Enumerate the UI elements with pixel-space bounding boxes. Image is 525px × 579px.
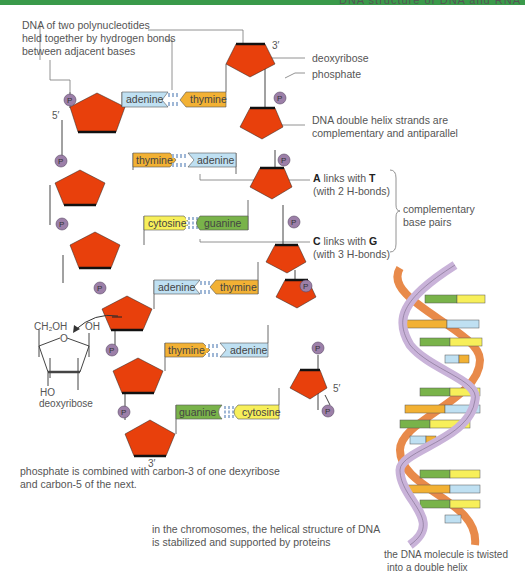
sugar-icon (70, 93, 125, 132)
helix-note: the DNA molecule is twisted into a doubl… (384, 548, 508, 574)
svg-text:P: P (281, 156, 286, 165)
svg-text:adenine: adenine (126, 93, 164, 105)
svg-text:adenine: adenine (158, 281, 196, 293)
phosphate-icon: P (322, 405, 334, 417)
sugar-icon (240, 108, 283, 139)
svg-text:O: O (60, 333, 68, 344)
phosphate-icon: P (64, 94, 76, 106)
sugar-icon (102, 296, 152, 330)
svg-text:P: P (97, 284, 102, 293)
cg-link-label: C links with G (with 3 H-bonds) (313, 235, 390, 261)
phosphate-icon: P (118, 406, 130, 418)
svg-text:thymine: thymine (190, 93, 227, 105)
phosphate-icon: P (274, 92, 286, 104)
sugar-icon (113, 358, 163, 393)
svg-text:thymine: thymine (136, 154, 173, 166)
chromosomes-note: in the chromosomes, the helical structur… (152, 523, 380, 549)
svg-text:thymine: thymine (168, 344, 205, 356)
svg-text:P: P (303, 282, 308, 291)
sugar-icon (70, 232, 120, 268)
base-pair-6: guanine cytosine (176, 388, 281, 434)
phosphate-icon: P (94, 282, 106, 294)
phosphate-label: phosphate (312, 68, 361, 81)
svg-text:deoxyribose: deoxyribose (39, 398, 93, 409)
phosphate-note: phosphate is combined with carbon-3 of o… (20, 465, 280, 491)
phosphate-icon: P (106, 344, 118, 356)
base-pair-2: thymine adenine (133, 153, 236, 174)
svg-text:thymine: thymine (220, 281, 257, 293)
sugar-icon (266, 245, 306, 273)
prime-5-bottom: 5′ (333, 383, 340, 394)
svg-text:guanine: guanine (204, 217, 242, 229)
svg-text:P: P (67, 96, 72, 105)
svg-text:P: P (315, 344, 320, 353)
dna-structure-diagram: P P P P P P P P P P P P adenine thymine … (0, 0, 525, 579)
phosphate-icon: P (312, 342, 324, 354)
svg-text:P: P (325, 407, 330, 416)
svg-text:P: P (121, 408, 126, 417)
prime-5-top: 5′ (52, 110, 59, 121)
base-pair-1: adenine thymine (122, 64, 227, 107)
svg-text:cytosine: cytosine (242, 406, 281, 418)
sugar-icon (125, 420, 175, 456)
svg-text:OH: OH (85, 321, 100, 332)
antiparallel-label: DNA double helix strands are complementa… (312, 114, 458, 140)
prime-3-top: 3′ (272, 40, 279, 51)
phosphate-icon: P (300, 280, 312, 292)
brace (390, 170, 400, 252)
svg-text:cytosine: cytosine (148, 217, 187, 229)
base-pair-5: thymine adenine (165, 325, 268, 371)
phosphate-icon: P (278, 154, 290, 166)
svg-text:HO: HO (40, 387, 55, 398)
double-helix-illustration (397, 265, 485, 545)
phosphate-icon: P (288, 216, 300, 228)
svg-text:CH₂OH: CH₂OH (34, 321, 67, 332)
svg-text:P: P (58, 157, 63, 166)
sugar-icon (226, 44, 275, 77)
deoxyribose-label: deoxyribose (312, 52, 369, 65)
svg-text:P: P (59, 220, 64, 229)
base-pair-3: cytosine guanine (144, 200, 248, 245)
svg-text:P: P (277, 94, 282, 103)
sugar-icon (55, 170, 105, 205)
svg-text:guanine: guanine (179, 406, 217, 418)
svg-text:adenine: adenine (197, 154, 235, 166)
svg-text:P: P (109, 346, 114, 355)
phosphate-icon: P (56, 218, 68, 230)
svg-text:P: P (291, 218, 296, 227)
sugar-icon (250, 168, 292, 199)
complementary-pairs-label: complementary base pairs (403, 203, 475, 229)
phosphate-icon: P (55, 155, 67, 167)
sugar-icon (290, 370, 327, 399)
at-link-label: A links with T (with 2 H-bonds) (313, 172, 390, 198)
polynucleotides-label: DNA of two polynucleotides held together… (22, 19, 176, 58)
base-pair-4: adenine thymine (154, 262, 258, 309)
svg-text:adenine: adenine (230, 344, 268, 356)
